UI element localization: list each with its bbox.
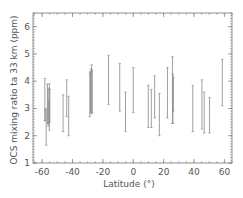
error-bar	[124, 92, 127, 132]
svg-text:-40: -40	[65, 167, 80, 177]
chart: -60-40-200204060 123456 Latitude (°) OCS…	[0, 0, 243, 198]
svg-text:0: 0	[130, 167, 136, 177]
error-bar	[150, 89, 153, 127]
error-bar	[192, 85, 195, 131]
y-axis-title: OCS mixing ratio ta 33 km (ppm)	[9, 15, 19, 164]
error-bar	[158, 93, 161, 135]
error-bar	[147, 85, 150, 127]
error-bar	[203, 92, 206, 133]
svg-text:6: 6	[24, 22, 30, 32]
error-bar	[118, 63, 121, 111]
error-bar	[208, 98, 211, 133]
error-bar	[132, 68, 135, 113]
error-bar	[172, 74, 175, 123]
svg-text:4: 4	[24, 76, 30, 86]
svg-text:-60: -60	[35, 167, 50, 177]
svg-text:-20: -20	[96, 167, 111, 177]
svg-text:20: 20	[158, 167, 170, 177]
y-tick-labels: 123456	[24, 22, 30, 168]
svg-text:5: 5	[24, 49, 30, 59]
error-bar	[166, 68, 169, 118]
svg-text:2: 2	[24, 131, 30, 141]
error-bar	[107, 55, 110, 104]
error-bars	[44, 55, 224, 145]
error-bar	[201, 80, 204, 129]
error-bar	[65, 80, 68, 117]
error-bar	[221, 59, 224, 105]
x-axis-title: Latitude (°)	[103, 179, 154, 189]
error-bar	[153, 76, 156, 118]
error-bar	[62, 95, 65, 132]
x-tick-labels: -60-40-200204060	[35, 167, 231, 177]
error-bar	[67, 96, 70, 136]
svg-text:40: 40	[188, 167, 200, 177]
svg-text:1: 1	[24, 158, 30, 168]
svg-text:60: 60	[219, 167, 231, 177]
svg-text:3: 3	[24, 103, 30, 113]
